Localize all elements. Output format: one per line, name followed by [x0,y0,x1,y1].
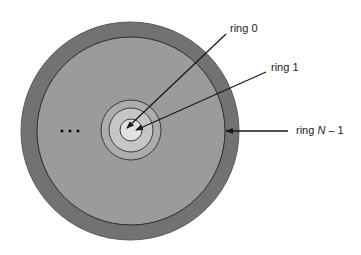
ring-0 [120,119,142,141]
label-ring-1: ring 1 [271,61,299,73]
label-ring-0: ring 0 [230,22,258,34]
label-ring-n-minus-1: ring N – 1 [296,124,344,136]
label-ring-n-suffix: – 1 [325,124,343,136]
label-ring-n-prefix: ring [296,124,317,136]
